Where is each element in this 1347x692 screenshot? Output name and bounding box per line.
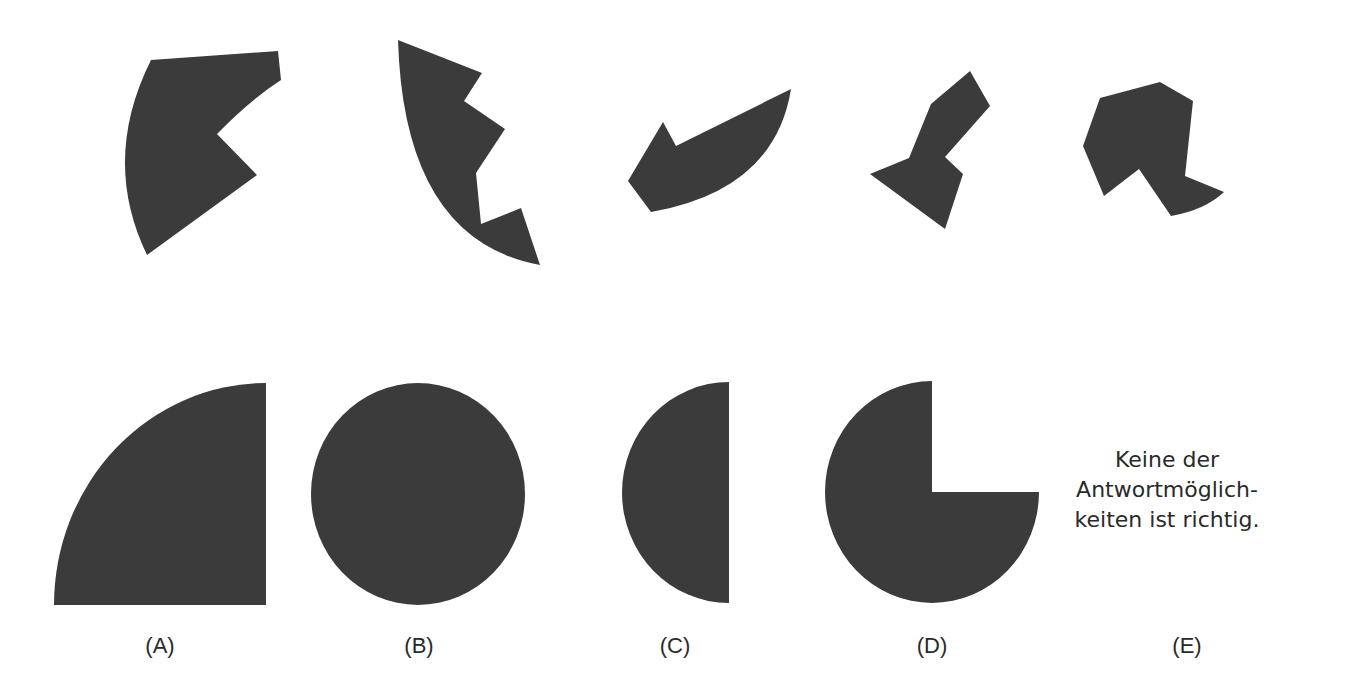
puzzle-piece-4 (870, 71, 990, 229)
answer-a-quarter-circle[interactable] (54, 383, 266, 605)
answer-label-b[interactable]: (B) (389, 632, 449, 660)
puzzle-pieces-row (125, 40, 1224, 265)
answer-label-a[interactable]: (A) (130, 632, 190, 660)
answer-e-line-1: Keine der (1062, 445, 1272, 475)
answer-label-d[interactable]: (D) (902, 632, 962, 660)
puzzle-piece-1 (125, 51, 281, 255)
answer-d-three-quarter-circle[interactable] (825, 381, 1039, 603)
puzzle-piece-5 (1083, 82, 1224, 216)
answer-shapes-row (54, 381, 1039, 605)
answer-c-half-circle[interactable] (622, 382, 729, 603)
puzzle-piece-2 (398, 40, 540, 265)
figure-assembly-canvas (0, 0, 1347, 692)
answer-e-text[interactable]: Keine der Antwortmöglich- keiten ist ric… (1062, 445, 1272, 535)
answer-e-line-3: keiten ist richtig. (1062, 505, 1272, 535)
answer-label-e[interactable]: (E) (1157, 632, 1217, 660)
answer-e-line-2: Antwortmöglich- (1062, 475, 1272, 505)
puzzle-piece-3 (628, 89, 791, 212)
answer-label-c[interactable]: (C) (645, 632, 705, 660)
answer-b-full-circle[interactable] (311, 383, 525, 605)
